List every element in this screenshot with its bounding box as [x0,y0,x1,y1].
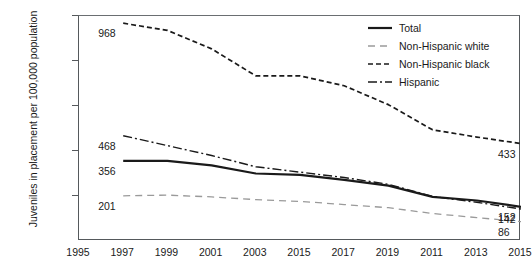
legend-item-non-hispanic-white[interactable]: Non-Hispanic white [368,38,489,54]
value-label: 201 [98,200,116,212]
legend-label-non-hispanic-white: Non-Hispanic white [399,40,489,52]
value-label: 86 [498,226,510,238]
value-label: 968 [98,27,116,39]
series-line-hispanic [123,136,521,209]
legend-key-non-hispanic-white [368,41,392,51]
legend-label-non-hispanic-black: Non-Hispanic black [399,58,489,70]
x-tick-label: 2017 [332,246,355,258]
legend: TotalNon-Hispanic whiteNon-Hispanic blac… [368,20,489,92]
legend-key-hispanic [368,77,392,87]
legend-label-total: Total [399,22,421,34]
legend-item-non-hispanic-black[interactable]: Non-Hispanic black [368,56,489,72]
legend-item-hispanic[interactable]: Hispanic [368,74,489,90]
x-tick-label: 2013 [464,246,487,258]
x-tick-label: 2019 [376,246,399,258]
y-axis-label: Juveniles in placement per 100,000 popul… [27,0,39,244]
legend-key-total [368,23,392,33]
value-label: 433 [498,148,516,160]
value-label: 356 [98,165,116,177]
x-tick-label: 2015 [287,246,310,258]
legend-item-total[interactable]: Total [368,20,489,36]
x-tick-label: 2003 [243,246,266,258]
x-tick-label: 2011 [420,246,443,258]
x-tick-label: 2015 [508,246,531,258]
value-label: 142 [498,213,516,225]
legend-label-hispanic: Hispanic [399,76,439,88]
legend-key-non-hispanic-black [368,59,392,69]
x-tick-label: 1997 [111,246,134,258]
x-tick-label: 1995 [66,246,89,258]
value-label: 468 [98,140,116,152]
x-tick-label: 1999 [155,246,178,258]
x-tick-label: 2001 [199,246,222,258]
